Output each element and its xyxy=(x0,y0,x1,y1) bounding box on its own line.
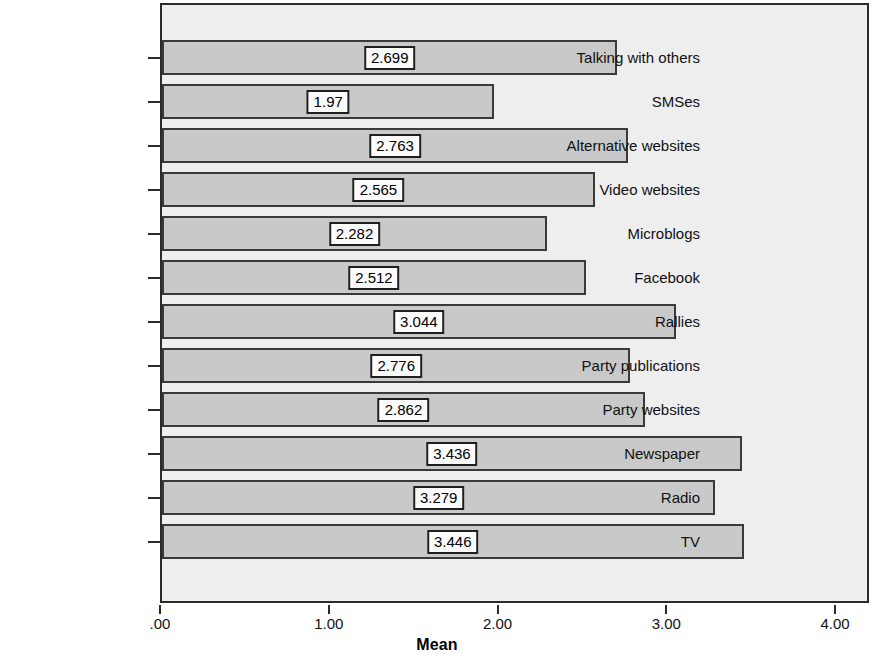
category-label: SMSes xyxy=(652,93,700,111)
category-label: Video websites xyxy=(599,181,700,199)
x-axis-tick-label: 2.00 xyxy=(483,615,512,633)
category-label: Newspaper xyxy=(624,445,700,463)
bar-value-label: 3.279 xyxy=(413,486,465,510)
category-tick xyxy=(148,321,160,323)
bar-chart: 2.6991.972.7632.5652.2822.5123.0442.7762… xyxy=(0,0,874,658)
category-tick xyxy=(148,101,160,103)
bar-value-label: 3.044 xyxy=(393,310,445,334)
category-tick xyxy=(148,277,160,279)
category-label: Radio xyxy=(661,489,700,507)
bar-value-label: 2.282 xyxy=(329,222,381,246)
category-tick xyxy=(148,497,160,499)
category-label: Party publications xyxy=(582,357,700,375)
x-axis-tick xyxy=(834,605,836,614)
x-axis-tick xyxy=(328,605,330,614)
x-axis-tick-label: .00 xyxy=(150,615,171,633)
x-axis-tick xyxy=(159,605,161,614)
category-label: Facebook xyxy=(634,269,700,287)
x-axis-tick xyxy=(665,605,667,614)
bar-value-label: 2.699 xyxy=(364,46,416,70)
category-tick xyxy=(148,57,160,59)
x-axis-tick-label: 4.00 xyxy=(820,615,849,633)
category-label: Party websites xyxy=(602,401,700,419)
x-axis-tick xyxy=(497,605,499,614)
plot-area: 2.6991.972.7632.5652.2822.5123.0442.7762… xyxy=(160,3,869,603)
bar-value-label: 3.436 xyxy=(426,442,478,466)
category-tick xyxy=(148,409,160,411)
bar-value-label: 2.512 xyxy=(348,266,400,290)
x-axis-tick-label: 3.00 xyxy=(652,615,681,633)
category-label: Microblogs xyxy=(627,225,700,243)
bar-value-label: 2.565 xyxy=(353,178,405,202)
bar-value-label: 1.97 xyxy=(307,90,350,114)
category-tick xyxy=(148,541,160,543)
category-label: TV xyxy=(681,533,700,551)
x-axis-title: Mean xyxy=(0,636,874,654)
bar-value-label: 3.446 xyxy=(427,530,479,554)
bar-value-label: 2.763 xyxy=(369,134,421,158)
bar-value-label: 2.776 xyxy=(370,354,422,378)
category-tick xyxy=(148,189,160,191)
x-axis-tick-label: 1.00 xyxy=(314,615,343,633)
category-tick xyxy=(148,453,160,455)
bar-value-label: 2.862 xyxy=(378,398,430,422)
plot-inner: 2.6991.972.7632.5652.2822.5123.0442.7762… xyxy=(162,5,867,601)
category-tick xyxy=(148,365,160,367)
category-tick xyxy=(148,233,160,235)
category-label: Talking with others xyxy=(577,49,700,67)
category-tick xyxy=(148,145,160,147)
category-label: Rallies xyxy=(655,313,700,331)
category-label: Alternative websites xyxy=(567,137,700,155)
